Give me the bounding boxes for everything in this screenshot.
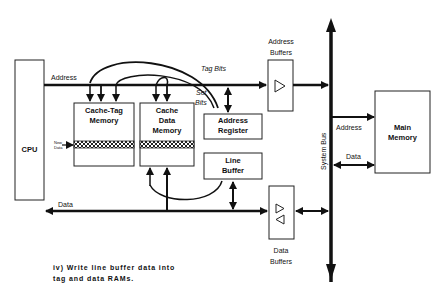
data-bus-label: Data	[58, 201, 73, 208]
system-bus-label: System Bus	[320, 133, 327, 170]
cache-tag-new-data-row	[74, 141, 134, 148]
set-bits-label: Set Bits	[196, 88, 207, 108]
new-data-label: New Data	[54, 140, 62, 150]
cpu-block	[15, 60, 44, 200]
address-buffers-label: Address Buffers	[262, 36, 300, 58]
data-buffers-block	[269, 186, 294, 239]
cache-data-new-data-row	[140, 141, 194, 148]
cpu-label: CPU	[15, 145, 44, 155]
address-buffers-block	[268, 60, 293, 111]
data-buffers-label: Data Buffers	[262, 245, 300, 267]
diagram-canvas	[0, 0, 446, 299]
main-memory-data-label: Data	[346, 153, 361, 160]
address-bus-label: Address	[51, 74, 77, 81]
cache-tag-memory-label: Cache-Tag Memory	[74, 106, 134, 126]
line-buffer-label: Line Buffer	[204, 156, 262, 176]
address-register-label: Address Register	[204, 116, 262, 136]
caption: iv) Write line buffer data into tag and …	[53, 262, 175, 284]
main-memory-label: Main Memory	[375, 123, 430, 143]
cache-data-memory-label: Cache Data Memory	[140, 106, 194, 136]
tag-bits-label: Tag Bits	[201, 65, 226, 72]
main-memory-address-label: Address	[336, 124, 362, 131]
